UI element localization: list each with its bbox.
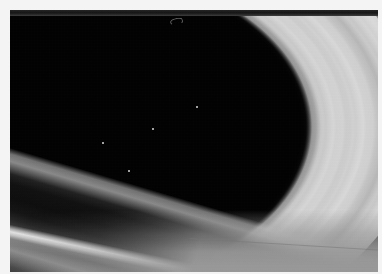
ring-speck (196, 106, 198, 108)
photo-content (10, 10, 378, 272)
saturn-rings-photograph (10, 10, 378, 272)
image-viewport (0, 0, 382, 280)
flat-gray-field (10, 190, 378, 272)
ring-speck (102, 142, 104, 144)
ring-speck (152, 128, 154, 130)
top-scan-edge (10, 10, 378, 16)
ring-speck (128, 170, 130, 172)
